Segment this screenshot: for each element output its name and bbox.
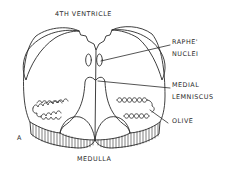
midline bbox=[95, 50, 96, 140]
left-dorsal-lobe bbox=[23, 30, 79, 80]
raphe-nucleus-left bbox=[86, 54, 92, 66]
pyramid-left bbox=[60, 117, 95, 140]
label-raphe-nuclei-line1: RAPHE' bbox=[172, 39, 198, 47]
title-4th-ventricle: 4TH VENTRICLE bbox=[55, 11, 112, 19]
right-dorsal-lobe bbox=[112, 30, 165, 80]
panel-letter: A bbox=[17, 135, 22, 143]
olive-left bbox=[33, 99, 68, 119]
medulla-diagram: 4TH VENTRICLE RAPHE' NUCLEI MEDIAL LEMNI… bbox=[0, 0, 233, 175]
medial-lemniscus-right bbox=[96, 77, 130, 133]
label-olive: OLIVE bbox=[172, 118, 193, 126]
raphe-nucleus-right bbox=[97, 54, 103, 66]
medial-lemniscus-leader bbox=[98, 81, 170, 88]
label-medial-lemniscus-line1: MEDIAL bbox=[172, 82, 199, 90]
label-medial-lemniscus-line2: LEMNISCUS bbox=[172, 94, 214, 102]
olive-leader bbox=[150, 110, 168, 123]
olive-right bbox=[117, 98, 154, 119]
raphe-leader bbox=[101, 45, 170, 61]
title-medulla: MEDULLA bbox=[77, 156, 111, 164]
label-raphe-nuclei-line2: NUCLEI bbox=[172, 51, 198, 59]
